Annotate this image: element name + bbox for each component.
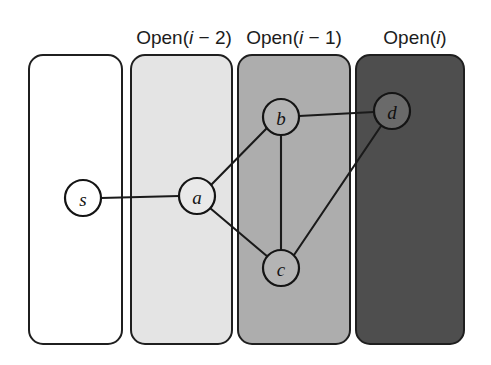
node-c-label: c [277, 259, 286, 280]
node-s-label: s [79, 189, 86, 210]
open-list-diagram: Open(i − 2) Open(i − 1) Open(i) s [0, 0, 491, 365]
label-open-i-minus-2: Open(i − 2) [136, 27, 232, 48]
node-d-label: d [387, 102, 397, 123]
node-a[interactable]: a [179, 178, 215, 214]
node-c[interactable]: c [263, 250, 299, 286]
figure-root: Open(i − 2) Open(i − 1) Open(i) s [0, 0, 491, 365]
label-open-i-minus-1: Open(i − 1) [246, 27, 342, 48]
open-i-minus-1-panel [238, 55, 350, 344]
node-b-label: b [276, 108, 286, 129]
label-prefix: Open( [246, 27, 299, 48]
label-suffix: − 2) [193, 27, 232, 48]
node-s[interactable]: s [65, 180, 101, 216]
open-i-panel [356, 55, 464, 344]
label-open-i: Open(i) [383, 27, 446, 48]
label-suffix: − 1) [303, 27, 342, 48]
panel-label-group: Open(i − 2) Open(i − 1) Open(i) [136, 27, 446, 48]
label-prefix: Open( [136, 27, 189, 48]
label-suffix: ) [440, 27, 446, 48]
node-a-label: a [192, 187, 202, 208]
node-b[interactable]: b [263, 99, 299, 135]
label-prefix: Open( [383, 27, 436, 48]
node-d[interactable]: d [374, 93, 410, 129]
